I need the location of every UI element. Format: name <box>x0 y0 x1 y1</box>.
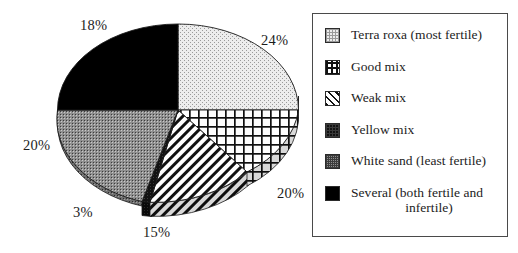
legend-list: Terra roxa (most fertile) Good mix Weak … <box>313 14 507 236</box>
legend-label-terra-roxa: Terra roxa (most fertile) <box>351 27 482 43</box>
legend-label-several-line2: infertile) <box>351 200 499 216</box>
pie-label-24: 24% <box>261 32 288 49</box>
legend-swatch-gray-stipple-icon <box>325 154 340 169</box>
pie-slice-several <box>58 24 179 110</box>
legend-item-yellow-mix: Yellow mix <box>325 122 499 138</box>
legend-item-weak-mix: Weak mix <box>325 90 499 106</box>
legend-item-white-sand: White sand (least fertile) <box>325 153 499 169</box>
pie-label-20-right: 20% <box>277 185 304 202</box>
legend-swatch-solid-black-icon <box>325 186 340 201</box>
pie-label-3: 3% <box>73 204 93 221</box>
pie-label-20-left: 20% <box>23 137 50 154</box>
legend-swatch-diagonal-icon <box>325 91 340 106</box>
legend-item-terra-roxa: Terra roxa (most fertile) <box>325 27 499 43</box>
legend-label-several: Several (both fertile and infertile) <box>351 185 499 216</box>
pie-chart-figure: 18% 24% 20% 20% 3% 15% Terra roxa (most … <box>0 0 518 253</box>
legend-label-weak-mix: Weak mix <box>351 90 406 106</box>
legend-label-yellow-mix: Yellow mix <box>351 122 414 138</box>
pie-label-18: 18% <box>80 17 107 34</box>
pie-plot-area: 18% 24% 20% 20% 3% 15% <box>0 0 308 253</box>
legend-label-white-sand: White sand (least fertile) <box>351 153 486 169</box>
legend-item-good-mix: Good mix <box>325 59 499 75</box>
legend-item-several: Several (both fertile and infertile) <box>325 185 499 216</box>
legend: Terra roxa (most fertile) Good mix Weak … <box>312 13 508 237</box>
legend-label-several-line1: Several (both fertile and <box>351 185 483 200</box>
legend-swatch-light-stipple-icon <box>325 28 340 43</box>
pie-label-15: 15% <box>143 224 170 241</box>
legend-label-good-mix: Good mix <box>351 59 406 75</box>
legend-swatch-crosshatch-icon <box>325 60 340 75</box>
legend-swatch-dark-texture-icon <box>325 123 340 138</box>
